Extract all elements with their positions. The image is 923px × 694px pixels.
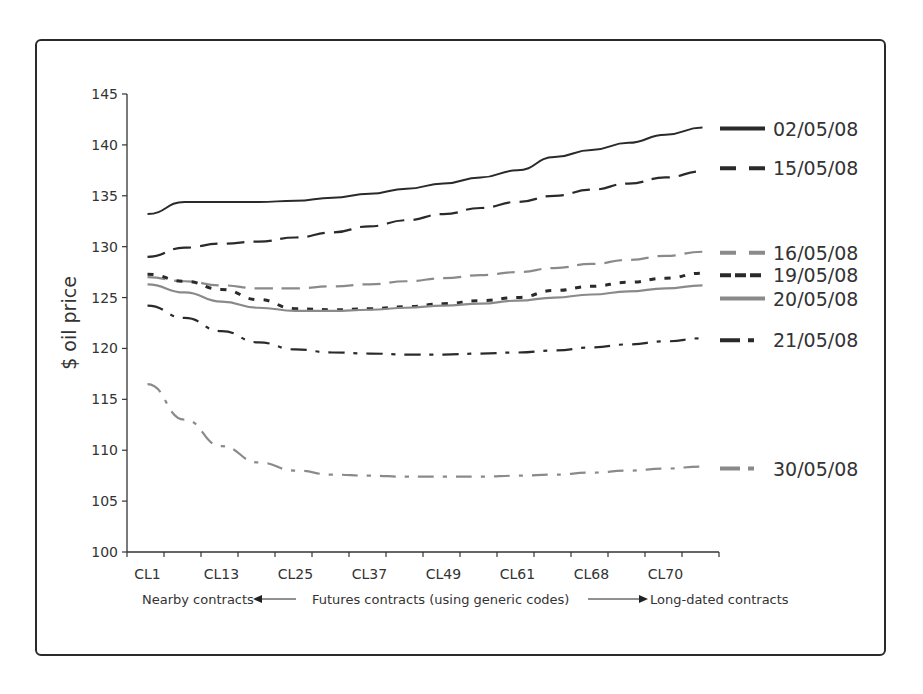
legend-label: 19/05/08 [773, 264, 858, 286]
y-tick-label: 120 [91, 340, 118, 356]
x-tick-label: CL1 [134, 566, 160, 582]
legend-label: 16/05/08 [773, 242, 858, 264]
series-line [148, 284, 703, 310]
y-tick-label: 105 [91, 493, 118, 509]
legend: 02/05/0815/05/0816/05/0819/05/0820/05/08… [720, 118, 858, 480]
y-tick-label: 100 [91, 544, 118, 560]
y-tick-label: 130 [91, 239, 118, 255]
x-tick-label: CL70 [648, 566, 683, 582]
x-tick-label: CL37 [352, 566, 387, 582]
x-tick-label: CL25 [278, 566, 313, 582]
y-tick-label: 125 [91, 290, 118, 306]
y-tick-label: 110 [91, 442, 118, 458]
legend-label: 21/05/08 [773, 329, 858, 351]
legend-label: 02/05/08 [773, 118, 858, 140]
y-tick-label: 145 [91, 86, 118, 102]
series-line [148, 252, 703, 289]
series-line [148, 306, 703, 355]
arrow-left-icon [253, 595, 296, 603]
x-annotation-nearby: Nearby contracts [142, 592, 254, 607]
legend-label: 20/05/08 [773, 288, 858, 310]
y-tick-label: 135 [91, 188, 118, 204]
series-lines [148, 128, 703, 477]
arrow-right-icon [588, 595, 648, 603]
x-tick-label: CL49 [426, 566, 461, 582]
x-annotation-futures: Futures contracts (using generic codes) [312, 592, 569, 607]
x-tick-label: CL68 [574, 566, 609, 582]
series-line [148, 171, 703, 256]
y-tick-label: 115 [91, 391, 118, 407]
y-tick-label: 140 [91, 137, 118, 153]
line-chart: 100105110115120125130135140145CL1CL13CL2… [0, 0, 923, 694]
y-axis-label: $ oil price [58, 276, 80, 370]
x-tick-label: CL61 [500, 566, 535, 582]
legend-label: 15/05/08 [773, 157, 858, 179]
x-annotation-longdated: Long-dated contracts [650, 592, 789, 607]
series-line [148, 128, 703, 215]
series-line [148, 384, 703, 477]
axes: 100105110115120125130135140145CL1CL13CL2… [91, 86, 719, 582]
legend-label: 30/05/08 [773, 458, 858, 480]
x-tick-label: CL13 [204, 566, 239, 582]
